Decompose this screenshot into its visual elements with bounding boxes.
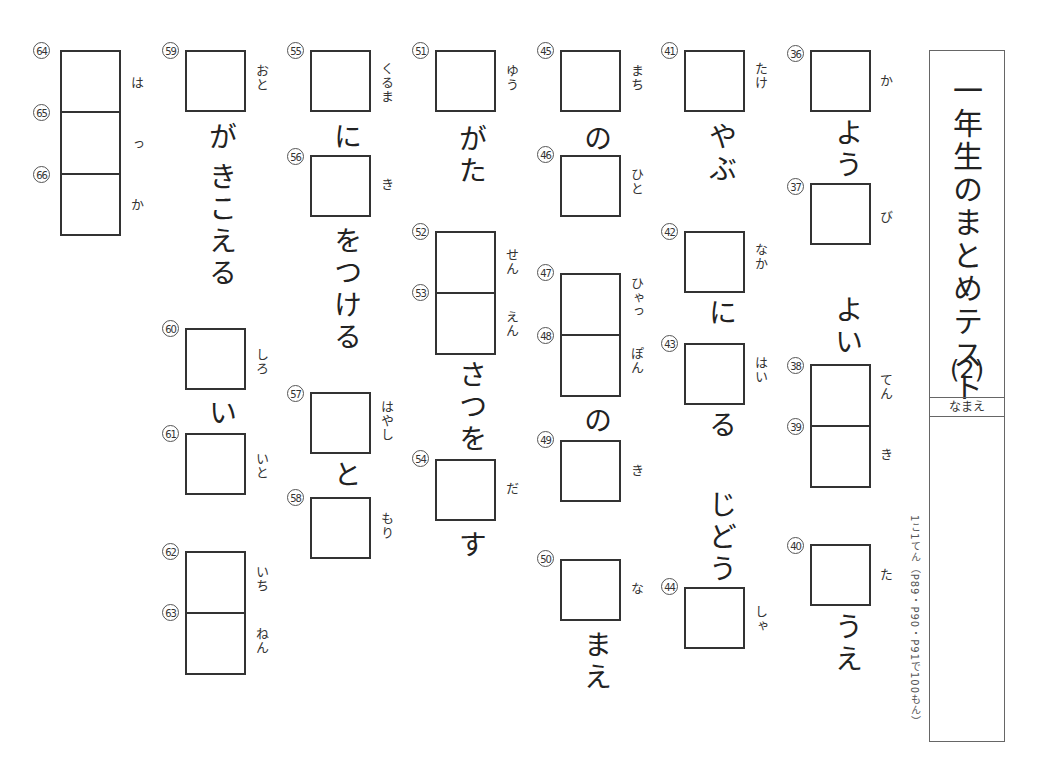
kana-mae: まえ [575, 630, 615, 694]
question-number-49: 49 [537, 431, 554, 448]
question-number-37: 37 [787, 178, 804, 195]
answer-box-51[interactable] [435, 50, 496, 112]
ruby-54: だ [502, 482, 521, 496]
kana-to: と [325, 460, 365, 492]
answer-box-56[interactable] [310, 155, 371, 217]
ruby-51: ゆう [502, 64, 521, 92]
answer-box-47-48[interactable] [560, 273, 621, 397]
ruby-64: は [127, 76, 146, 90]
ruby-60: しろ [252, 348, 271, 376]
kana-su: す [450, 530, 490, 562]
box-divider [62, 173, 119, 175]
question-number-39: 39 [787, 418, 804, 435]
question-number-53: 53 [412, 284, 429, 301]
ruby-37: び [876, 210, 895, 224]
answer-box-55[interactable] [310, 50, 371, 112]
name-label: なまえ [930, 397, 1004, 417]
ruby-48: ぽん [627, 347, 646, 375]
question-number-55: 55 [287, 42, 304, 59]
answer-box-60[interactable] [185, 328, 246, 390]
question-number-36: 36 [787, 45, 804, 62]
question-number-59: 59 [162, 42, 179, 59]
question-number-57: 57 [287, 385, 304, 402]
ruby-63: ねん [252, 627, 271, 655]
answer-box-44[interactable] [684, 587, 745, 649]
question-number-65: 65 [33, 104, 50, 121]
ruby-42: なか [751, 243, 770, 271]
kana-ru: る [700, 410, 740, 442]
kana-no-1: の [575, 124, 615, 156]
ruby-40: た [876, 568, 895, 582]
ruby-55: くるま [377, 62, 396, 104]
ruby-41: たけ [751, 62, 770, 90]
question-number-38: 38 [787, 357, 804, 374]
question-number-47: 47 [537, 264, 554, 281]
question-number-66: 66 [33, 166, 50, 183]
kana-no-2: の [575, 406, 615, 438]
answer-box-40[interactable] [810, 544, 871, 606]
question-number-56: 56 [287, 148, 304, 165]
question-number-45: 45 [537, 42, 554, 59]
answer-box-64-66[interactable] [60, 50, 121, 236]
box-divider [437, 292, 494, 294]
answer-box-36[interactable] [810, 50, 871, 112]
ruby-61: いと [252, 452, 271, 480]
question-number-41: 41 [661, 42, 678, 59]
ruby-38: てん [876, 373, 895, 401]
answer-box-59[interactable] [185, 50, 246, 112]
answer-box-37[interactable] [810, 183, 871, 245]
answer-box-49[interactable] [560, 440, 621, 502]
kana-kikoeru: きこえる [200, 162, 240, 290]
ruby-45: まち [627, 64, 646, 92]
kana-i: い [200, 398, 240, 430]
ruby-47: ひゃっ [627, 277, 646, 319]
answer-box-61[interactable] [185, 433, 246, 495]
question-number-44: 44 [661, 578, 678, 595]
kana-yabu: やぶ [700, 122, 740, 186]
kana-wotsukeru: をつける [325, 226, 365, 354]
kana-satsuwo: さつを [450, 360, 490, 456]
question-number-63: 63 [162, 604, 179, 621]
ruby-56: き [377, 178, 396, 192]
ruby-43: はい [751, 356, 770, 384]
question-number-61: 61 [162, 425, 179, 442]
question-number-50: 50 [537, 550, 554, 567]
ruby-53: えん [502, 310, 521, 338]
ruby-58: もり [377, 512, 396, 540]
answer-box-43[interactable] [684, 343, 745, 405]
scoring-note: 1こ1てん（P89・P90・P91で100もん） [907, 515, 922, 727]
question-number-62: 62 [162, 543, 179, 560]
ruby-66: か [127, 198, 146, 212]
box-divider [562, 334, 619, 336]
answer-box-57[interactable] [310, 392, 371, 454]
question-number-60: 60 [162, 320, 179, 337]
ruby-52: せん [502, 248, 521, 276]
answer-box-54[interactable] [435, 459, 496, 521]
answer-box-52-53[interactable] [435, 231, 496, 355]
answer-box-38-39[interactable] [810, 364, 871, 488]
question-number-64: 64 [33, 42, 50, 59]
answer-box-41[interactable] [684, 50, 745, 112]
ruby-62: いち [252, 565, 271, 593]
question-number-46: 46 [537, 146, 554, 163]
answer-box-62-63[interactable] [185, 551, 246, 675]
kana-jidou: じどう [700, 490, 740, 586]
ruby-49: き [627, 464, 646, 478]
box-divider [812, 425, 869, 427]
ruby-46: ひと [627, 168, 646, 196]
question-number-54: 54 [412, 450, 429, 467]
answer-box-58[interactable] [310, 497, 371, 559]
box-divider [187, 612, 244, 614]
kana-gata: がた [450, 124, 490, 188]
question-number-58: 58 [287, 489, 304, 506]
kana-ue: うえ [826, 612, 866, 676]
question-number-40: 40 [787, 537, 804, 554]
answer-box-45[interactable] [560, 50, 621, 112]
answer-box-50[interactable] [560, 559, 621, 621]
answer-box-42[interactable] [684, 231, 745, 293]
question-number-43: 43 [661, 335, 678, 352]
ruby-36: か [876, 74, 895, 88]
title-panel: 一年生のまとめテスト (2) なまえ [929, 50, 1005, 742]
worksheet-number: (2) [930, 356, 1004, 384]
answer-box-46[interactable] [560, 155, 621, 217]
